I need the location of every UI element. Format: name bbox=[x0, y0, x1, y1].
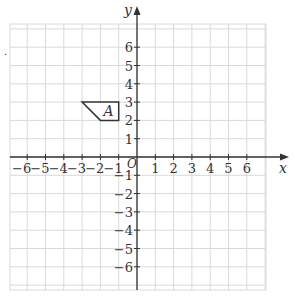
y-tick-label: 3 bbox=[125, 95, 133, 110]
x-tick-label: −4 bbox=[49, 161, 68, 176]
x-tick-label: 2 bbox=[169, 161, 177, 176]
stray-mark: . bbox=[4, 46, 7, 57]
x-tick-label: 6 bbox=[243, 161, 251, 176]
shape-label: A bbox=[102, 103, 114, 119]
x-tick-label: −2 bbox=[85, 161, 104, 176]
x-tick-label: −6 bbox=[12, 161, 31, 176]
x-tick-label: 4 bbox=[206, 161, 214, 176]
x-tick-label: 1 bbox=[151, 161, 159, 176]
shapes: A bbox=[82, 102, 119, 120]
coordinate-grid-figure: −6−5−4−3−2−1123456654321−1−2−3−4−5−6 x y… bbox=[0, 0, 295, 298]
y-tick-label: −4 bbox=[114, 223, 133, 238]
y-tick-label: 5 bbox=[125, 59, 133, 74]
y-axis-arrow-icon bbox=[134, 6, 141, 15]
y-tick-label: −6 bbox=[114, 260, 133, 275]
y-tick-label: −3 bbox=[114, 205, 133, 220]
origin-label: O bbox=[127, 157, 137, 171]
y-tick-label: −5 bbox=[114, 242, 133, 257]
x-tick-label: 3 bbox=[188, 161, 196, 176]
x-axis-label: x bbox=[279, 160, 287, 176]
y-tick-label: −2 bbox=[114, 187, 133, 202]
x-tick-label: −5 bbox=[30, 161, 49, 176]
y-tick-label: 2 bbox=[125, 113, 133, 128]
y-axis-label: y bbox=[123, 2, 133, 18]
y-tick-label: 4 bbox=[125, 77, 133, 92]
x-tick-label: −3 bbox=[67, 161, 86, 176]
x-tick-label: 5 bbox=[224, 161, 232, 176]
y-tick-label: 6 bbox=[125, 40, 133, 55]
y-tick-label: 1 bbox=[125, 132, 133, 147]
